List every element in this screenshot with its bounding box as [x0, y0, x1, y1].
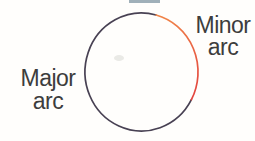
- minor-arc-label-line1: Minor: [191, 14, 255, 36]
- arc-diagram: Minor arc Major arc: [0, 0, 255, 141]
- print-smudge: [114, 55, 124, 61]
- minor-arc-label: Minor arc: [191, 14, 255, 58]
- minor-arc-label-line2: arc: [191, 36, 255, 58]
- major-arc-label-line1: Major: [10, 67, 86, 90]
- major-arc-label: Major arc: [10, 67, 86, 113]
- major-arc-label-line2: arc: [10, 90, 86, 113]
- major-arc-path: [85, 13, 191, 131]
